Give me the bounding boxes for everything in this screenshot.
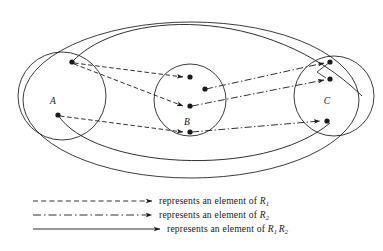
legend-r1r2-sub1: 1 — [274, 228, 278, 235]
point-a2 — [55, 112, 60, 117]
point-a1 — [69, 59, 74, 64]
legend-r1r2-sub2: 2 — [285, 228, 289, 235]
legend-label-r2: represents an element of R2 — [159, 209, 269, 220]
legend-r1-prefix: represents an element of — [159, 195, 260, 206]
edge-r2-b2-c1 — [206, 63, 324, 89]
set-label-b: B — [184, 117, 190, 127]
edge-r2-b3-c2 — [192, 80, 324, 106]
outer-universe-ellipse — [23, 22, 359, 178]
legend-r2-prefix: represents an element of — [159, 209, 260, 220]
legend-r1r2-symbol1: R — [268, 223, 274, 234]
point-b3 — [187, 103, 192, 108]
legend-label-r1: represents an element of R1 — [159, 195, 269, 206]
edge-comp-a2-c-bottom — [58, 115, 330, 161]
point-b1 — [187, 74, 192, 79]
edge-r1-a1-b3 — [74, 64, 183, 106]
legend-label-r1r2: represents an element of R1R2 — [167, 223, 288, 234]
edge-r2-b4-c3 — [192, 121, 320, 132]
legend-r1r2-prefix: represents an element of — [167, 223, 268, 234]
point-c3 — [324, 118, 329, 123]
legend-r1-sub: 1 — [266, 200, 270, 207]
legend-r1-symbol: R — [260, 195, 266, 206]
point-b4 — [187, 129, 192, 134]
edge-comp-a1-c-top — [72, 24, 362, 96]
edge-r1-a2-b4 — [60, 116, 183, 132]
set-label-c: C — [324, 96, 331, 106]
set-circle-a — [18, 52, 106, 140]
legend-r1r2-symbol2: R — [279, 223, 285, 234]
legend-r2-symbol: R — [260, 209, 266, 220]
legend-r2-sub: 2 — [266, 214, 270, 221]
point-c2 — [327, 76, 332, 81]
set-label-a: A — [49, 96, 56, 106]
point-b2 — [202, 86, 207, 91]
